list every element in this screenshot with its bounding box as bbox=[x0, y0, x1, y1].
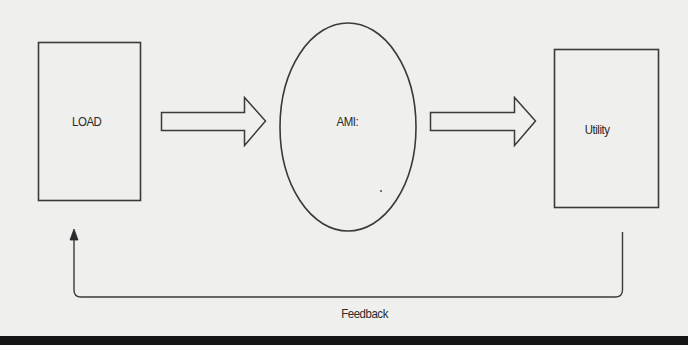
feedback-arrowhead-icon bbox=[70, 229, 78, 240]
utility-label: Utility bbox=[585, 122, 610, 137]
bottom-border-bar bbox=[0, 336, 688, 345]
diagram-svg bbox=[0, 0, 688, 345]
load-label: LOAD bbox=[72, 114, 101, 129]
ami-dot bbox=[380, 190, 382, 192]
arrow-load-to-ami-icon bbox=[162, 98, 266, 146]
arrow-ami-to-utility-icon bbox=[431, 98, 536, 146]
diagram-canvas: LOAD AMI: Utility Feedback bbox=[0, 0, 688, 345]
ami-label: AMI: bbox=[336, 114, 358, 129]
feedback-line bbox=[74, 232, 623, 297]
feedback-label: Feedback bbox=[341, 306, 388, 321]
